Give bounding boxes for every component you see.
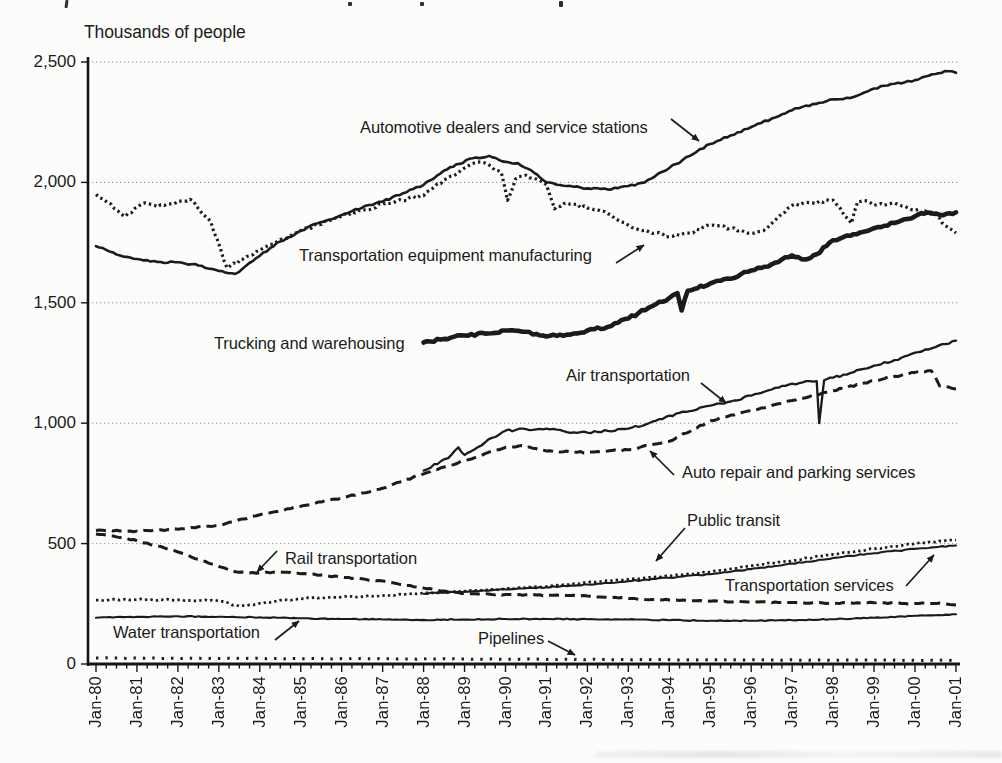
annotation-arrow-water-transportation xyxy=(275,621,299,640)
series-line-air-transportation xyxy=(424,341,956,471)
x-tick-label: Jan-91 xyxy=(536,676,555,728)
y-tick-label: 2,500 xyxy=(14,52,76,72)
series-label-public-transit: Public transit xyxy=(687,511,780,530)
annotation-arrow-transportation-equipment-mfg xyxy=(616,245,644,263)
series-label-auto-repair-parking: Auto repair and parking services xyxy=(682,463,915,482)
x-tick-label: Jan-99 xyxy=(864,676,883,728)
series-line-public-transit xyxy=(96,540,956,606)
y-tick-label: 0 xyxy=(14,654,76,674)
annotation-arrow-pipelines xyxy=(548,641,575,655)
y-tick-label: 1,000 xyxy=(14,413,76,433)
scanned-employment-chart-page: Thousands of people 05001,0001,5002,0002… xyxy=(0,0,1002,763)
x-tick-label: Jan-96 xyxy=(741,676,760,728)
annotation-arrow-air-transportation xyxy=(701,383,726,403)
x-tick-label: Jan-95 xyxy=(700,676,719,728)
x-tick-label: Jan-87 xyxy=(373,676,392,728)
x-tick-label: Jan-82 xyxy=(168,676,187,728)
annotation-arrow-public-transit xyxy=(656,528,685,561)
series-label-automotive-dealers: Automotive dealers and service stations xyxy=(360,118,648,137)
series-label-transportation-services: Transportation services xyxy=(725,576,894,595)
series-label-pipelines: Pipelines xyxy=(478,629,544,648)
series-line-water-transportation xyxy=(96,614,956,621)
y-tick-label: 1,500 xyxy=(14,293,76,313)
annotation-arrow-transportation-services xyxy=(906,555,934,586)
x-tick-label: Jan-84 xyxy=(250,676,269,728)
x-tick-label: Jan-80 xyxy=(86,676,105,728)
series-line-pipelines xyxy=(96,658,956,661)
annotation-arrow-auto-repair-parking xyxy=(650,451,674,475)
x-tick-label: Jan-89 xyxy=(455,676,474,728)
x-tick-label: Jan-93 xyxy=(618,676,637,728)
x-tick-label: Jan-01 xyxy=(946,676,965,728)
series-line-auto-repair-parking xyxy=(96,371,956,532)
x-tick-label: Jan-88 xyxy=(414,676,433,728)
series-label-water-transportation: Water transportation xyxy=(113,623,260,642)
annotation-arrow-rail-transportation xyxy=(257,551,277,572)
series-line-trucking-warehousing xyxy=(424,212,956,342)
x-tick-label: Jan-97 xyxy=(782,676,801,728)
x-tick-label: Jan-00 xyxy=(905,676,924,728)
chart-canvas xyxy=(0,0,1002,763)
x-tick-label: Jan-81 xyxy=(127,676,146,728)
scan-smudge-artifact xyxy=(596,751,1002,758)
x-tick-label: Jan-86 xyxy=(332,676,351,728)
x-tick-label: Jan-92 xyxy=(577,676,596,728)
x-tick-label: Jan-85 xyxy=(291,676,310,728)
y-tick-label: 500 xyxy=(14,534,76,554)
annotation-arrow-automotive-dealers xyxy=(671,119,699,141)
series-label-rail-transportation: Rail transportation xyxy=(285,549,417,568)
series-label-trucking-warehousing: Trucking and warehousing xyxy=(214,334,405,353)
x-tick-label: Jan-94 xyxy=(659,676,678,728)
x-tick-label: Jan-83 xyxy=(209,676,228,728)
series-label-air-transportation: Air transportation xyxy=(566,366,690,385)
series-label-transportation-equipment-mfg: Transportation equipment manufacturing xyxy=(299,246,592,265)
x-tick-label: Jan-90 xyxy=(496,676,515,728)
x-tick-label: Jan-98 xyxy=(823,676,842,728)
y-tick-label: 2,000 xyxy=(14,172,76,192)
